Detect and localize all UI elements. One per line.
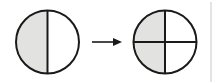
fraction-diagram-canvas xyxy=(0,0,218,84)
left-circle-group xyxy=(16,11,79,74)
transformation-arrow xyxy=(92,38,122,46)
right-circle-group xyxy=(134,11,197,74)
fraction-circles-figure: 1/2 → 2/4 Circle partitioned into halves… xyxy=(0,0,218,84)
left-circle-unshaded-half xyxy=(48,11,80,74)
arrow-head-icon xyxy=(113,38,122,46)
left-circle-shaded-half xyxy=(16,11,47,74)
